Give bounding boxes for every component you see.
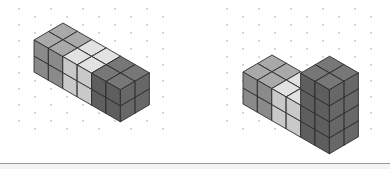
grid-dot (290, 40, 292, 42)
grid-dot (290, 56, 292, 58)
grid-dot (114, 120, 116, 122)
grid-dot (242, 112, 244, 114)
grid-dot (34, 16, 36, 18)
grid-dot (370, 96, 372, 98)
grid-dot (114, 8, 116, 10)
grid-dot (162, 16, 164, 18)
grid-dot (242, 64, 244, 66)
grid-dot (322, 24, 324, 26)
grid-dot (226, 8, 228, 10)
grid-dot (162, 48, 164, 50)
grid-dot (370, 16, 372, 18)
grid-dot (146, 120, 148, 122)
grid-dot (354, 56, 356, 58)
isometric-cube-figures (0, 0, 390, 169)
grid-dot (66, 128, 68, 130)
grid-dot (306, 16, 308, 18)
grid-dot (130, 16, 132, 18)
grid-dot (162, 112, 164, 114)
grid-dot (18, 40, 20, 42)
grid-dot (50, 88, 52, 90)
grid-dot (242, 16, 244, 18)
grid-dot (258, 120, 260, 122)
grid-dot (162, 64, 164, 66)
grid-dot (18, 56, 20, 58)
grid-dot (114, 24, 116, 26)
grid-dot (258, 56, 260, 58)
grid-dot (370, 128, 372, 130)
grid-dot (18, 8, 20, 10)
grid-dot (370, 64, 372, 66)
grid-dot (34, 128, 36, 130)
grid-dot (226, 56, 228, 58)
grid-dot (274, 16, 276, 18)
grid-dot (274, 32, 276, 34)
grid-dot (66, 16, 68, 18)
grid-dot (322, 56, 324, 58)
grid-dot (338, 48, 340, 50)
grid-dot (130, 128, 132, 130)
grid-dot (258, 24, 260, 26)
grid-dot (82, 120, 84, 122)
grid-dot (306, 48, 308, 50)
grid-dot (98, 32, 100, 34)
grid-dot (82, 8, 84, 10)
grid-dot (354, 40, 356, 42)
grid-dot (18, 120, 20, 122)
grid-dot (338, 32, 340, 34)
grid-dot (370, 80, 372, 82)
grid-dot (98, 112, 100, 114)
grid-dot (226, 120, 228, 122)
grid-dot (370, 112, 372, 114)
grid-dot (98, 16, 100, 18)
grid-dot (162, 32, 164, 34)
grid-dot (18, 72, 20, 74)
grid-dot (50, 8, 52, 10)
bottom-separator-shadow (0, 164, 390, 169)
grid-dot (306, 64, 308, 66)
grid-dot (242, 128, 244, 130)
grid-dot (226, 72, 228, 74)
grid-dot (34, 112, 36, 114)
grid-dot (34, 32, 36, 34)
grid-dot (274, 128, 276, 130)
grid-dot (146, 40, 148, 42)
grid-dot (290, 24, 292, 26)
figure-right-cube-block-with-tower (243, 55, 358, 154)
grid-dot (18, 104, 20, 106)
grid-dot (146, 24, 148, 26)
grid-dot (258, 40, 260, 42)
grid-dot (50, 104, 52, 106)
grid-dot (306, 32, 308, 34)
grid-dot (322, 40, 324, 42)
grid-dot (290, 8, 292, 10)
grid-dot (162, 80, 164, 82)
grid-dot (242, 48, 244, 50)
grid-dot (354, 8, 356, 10)
figure-left-cube-block (34, 23, 149, 122)
grid-dot (226, 40, 228, 42)
grid-dot (370, 32, 372, 34)
grid-dot (226, 104, 228, 106)
grid-dot (162, 128, 164, 130)
grid-dot (114, 40, 116, 42)
grid-dot (258, 8, 260, 10)
grid-dot (82, 24, 84, 26)
grid-dot (354, 24, 356, 26)
grid-dot (18, 24, 20, 26)
grid-dot (242, 32, 244, 34)
grid-dot (146, 56, 148, 58)
grid-dot (50, 120, 52, 122)
grid-dot (34, 96, 36, 98)
grid-dot (82, 104, 84, 106)
grid-dot (66, 96, 68, 98)
grid-dot (274, 48, 276, 50)
grid-dot (162, 96, 164, 98)
grid-dot (130, 48, 132, 50)
grid-dot (66, 112, 68, 114)
grid-dot (130, 32, 132, 34)
grid-dot (370, 48, 372, 50)
grid-dot (338, 16, 340, 18)
grid-dot (34, 80, 36, 82)
grid-dot (98, 128, 100, 130)
